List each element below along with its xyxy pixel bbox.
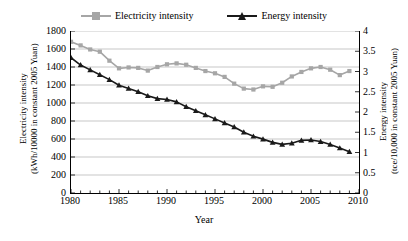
y-tick-200: 200 <box>32 170 66 180</box>
y2-tick-0p5: 0.5 <box>363 168 387 178</box>
x-tick-2005: 2005 <box>293 196 327 206</box>
y-tick-1200: 1200 <box>32 80 66 90</box>
y-tick-1400: 1400 <box>32 62 66 72</box>
x-tick-1985: 1985 <box>101 196 135 206</box>
legend-item-electricity-intensity: Electricity intensity <box>81 11 194 21</box>
legend-swatch-energy-intensity <box>227 11 257 21</box>
y-tick-1800: 1800 <box>32 26 66 36</box>
legend-item-energy-intensity: Energy intensity <box>227 11 327 21</box>
y2-tick-4: 4 <box>363 26 387 36</box>
y2-tick-3p5: 3.5 <box>363 46 387 56</box>
x-tick-1990: 1990 <box>149 196 183 206</box>
y-tick-400: 400 <box>32 152 66 162</box>
plot-area <box>70 31 360 194</box>
y-tick-1600: 1600 <box>32 44 66 54</box>
y2-tick-1p5: 1.5 <box>363 127 387 137</box>
chart-legend: Electricity intensity Energy intensity <box>0 8 408 24</box>
y-axis-title-line1: Electricity intensity <box>18 44 28 174</box>
x-axis-title: Year <box>0 214 408 225</box>
x-tick-1980: 1980 <box>53 196 87 206</box>
x-tick-2000: 2000 <box>245 196 279 206</box>
chart-canvas <box>71 31 359 193</box>
x-tick-1995: 1995 <box>197 196 231 206</box>
x-tick-2010: 2010 <box>341 196 375 206</box>
legend-label-electricity-intensity: Electricity intensity <box>115 11 194 21</box>
chart-figure: Electricity intensity Energy intensity E… <box>0 0 408 241</box>
y-tick-1000: 1000 <box>32 98 66 108</box>
legend-label-energy-intensity: Energy intensity <box>261 11 327 21</box>
y2-tick-2: 2 <box>363 107 387 117</box>
legend-swatch-electricity-intensity <box>81 11 111 21</box>
y-tick-600: 600 <box>32 134 66 144</box>
y2-axis-title-line2: (tce/10,000 in constant 2005 Yuan) <box>389 40 399 182</box>
y2-tick-2p5: 2.5 <box>363 87 387 97</box>
y2-tick-3: 3 <box>363 67 387 77</box>
y2-tick-1: 1 <box>363 148 387 158</box>
y-tick-800: 800 <box>32 116 66 126</box>
